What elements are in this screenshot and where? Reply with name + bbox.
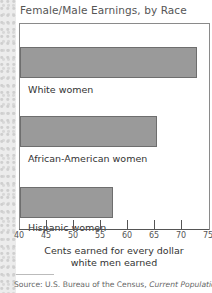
- x-tick-label: 40: [14, 231, 24, 240]
- source-italic-text: Current Population: [149, 280, 212, 289]
- x-tick-label: 50: [68, 231, 78, 240]
- x-axis-label: Cents earned for every dollar white men …: [19, 245, 209, 269]
- source-note: Source: U.S. Bureau of the Census, Curre…: [14, 280, 212, 289]
- x-tick-label: 45: [41, 231, 51, 240]
- x-tick-label: 60: [122, 231, 132, 240]
- bar-african-american-women: [20, 116, 157, 147]
- bar-hispanic-women: [20, 187, 113, 218]
- x-axis-label-line-1: Cents earned for every dollar: [19, 245, 209, 257]
- x-tick-label: 55: [95, 231, 105, 240]
- bar-label-white-women: White women: [28, 84, 93, 95]
- x-tick-label: 70: [176, 231, 186, 240]
- chart-title: Female/Male Earnings, by Race: [20, 4, 187, 16]
- x-tick: [181, 220, 182, 229]
- x-tick: [127, 220, 128, 229]
- source-text: Source: U.S. Bureau of the Census,: [14, 280, 147, 289]
- decorative-texture-strip: [0, 0, 16, 293]
- x-tick: [46, 220, 47, 229]
- bar-white-women: [20, 47, 197, 78]
- source-divider: [16, 274, 54, 275]
- x-tick: [154, 220, 155, 229]
- x-tick: [100, 220, 101, 229]
- x-tick-label: 75: [203, 231, 212, 240]
- x-axis-line: [19, 229, 209, 230]
- x-tick-label: 65: [149, 231, 159, 240]
- x-tick: [73, 220, 74, 229]
- x-axis-label-line-2: white men earned: [19, 257, 209, 269]
- plot-area: White women African-American women Hispa…: [19, 23, 210, 230]
- bar-label-african-american-women: African-American women: [28, 153, 147, 164]
